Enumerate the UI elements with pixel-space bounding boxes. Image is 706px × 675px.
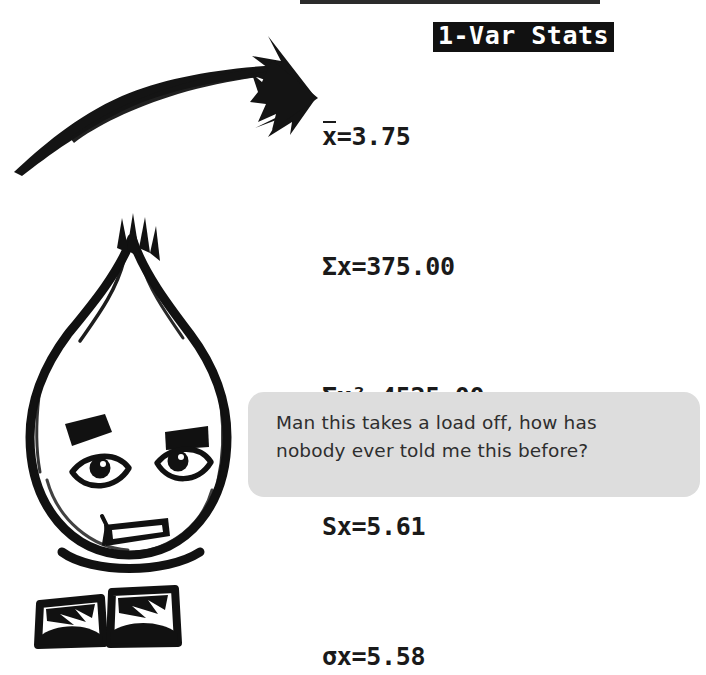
- left-shoe: [38, 598, 104, 645]
- right-eye: [157, 449, 211, 478]
- right-shoe: [110, 589, 178, 644]
- speech-bubble: Man this takes a load off, how has nobod…: [248, 392, 700, 497]
- left-eye: [72, 456, 129, 485]
- stat-line-sum-x: Σx=375.00: [322, 251, 682, 284]
- stat-mean-number: 3.75: [352, 122, 411, 151]
- annotation-arrow-container: [0, 30, 330, 180]
- page-edge-bar: [300, 0, 600, 4]
- teardrop-character-illustration: [0, 200, 260, 675]
- shoes: [38, 589, 178, 645]
- teardrop-character: [0, 200, 260, 675]
- stat-line-mean: x=3.75: [322, 121, 682, 154]
- stat-line-sample-sd: Sx=5.61: [322, 511, 682, 544]
- stat-mean-value: =: [337, 122, 352, 151]
- calculator-stats-list: x=3.75 Σx=375.00 Σx²=4525.00 Sx=5.61 σx=…: [322, 56, 682, 675]
- body-outline: [30, 238, 227, 555]
- stat-population-sd-label: σx=5.58: [322, 642, 425, 671]
- curved-pointer-arrow-icon: [0, 30, 330, 180]
- calculator-screen-title: 1-Var Stats: [433, 22, 614, 52]
- stat-line-population-sd: σx=5.58: [322, 641, 682, 674]
- screenshot-canvas: 1-Var Stats x=3.75 Σx=375.00 Σx²=4525.00…: [0, 0, 706, 675]
- speech-bubble-line-2: nobody ever told me this before?: [276, 437, 676, 465]
- stat-sum-x-label: Σx=375.00: [322, 252, 455, 281]
- speech-bubble-line-1: Man this takes a load off, how has: [276, 409, 676, 437]
- stat-sample-sd-label: Sx=5.61: [322, 512, 425, 541]
- calculator-readout: 1-Var Stats x=3.75 Σx=375.00 Σx²=4525.00…: [322, 22, 682, 675]
- speech-bubble-text: Man this takes a load off, how has nobod…: [276, 409, 676, 465]
